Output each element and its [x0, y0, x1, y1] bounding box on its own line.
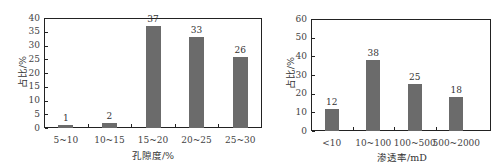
x-tick-mark: [394, 127, 395, 130]
data-label: 38: [358, 49, 388, 58]
data-label: 18: [441, 86, 471, 95]
bar: [449, 97, 463, 131]
y-tick-label: 40: [287, 52, 307, 61]
y-tick-mark: [312, 94, 315, 95]
bar: [325, 109, 339, 131]
y-tick-mark: [312, 75, 315, 76]
x-tick-mark: [353, 127, 354, 130]
bar: [408, 84, 422, 131]
y-tick-label: 0: [287, 127, 307, 136]
y-tick-label: 50: [287, 33, 307, 42]
y-tick-label: 30: [287, 71, 307, 80]
y-tick-mark: [312, 56, 315, 57]
y-tick-label: 20: [287, 89, 307, 98]
y-tick-mark: [312, 112, 315, 113]
y-tick-mark: [312, 19, 315, 20]
data-label: 25: [400, 73, 430, 82]
y-tick-mark: [312, 131, 315, 132]
data-label: 12: [317, 98, 347, 107]
bar: [366, 60, 380, 131]
x-tick-mark: [436, 127, 437, 130]
y-tick-label: 60: [287, 15, 307, 24]
y-tick-mark: [312, 38, 315, 39]
x-tick-label: 500~2000: [431, 138, 481, 148]
y-tick-label: 10: [287, 108, 307, 117]
x-axis-label: 渗透率/mD: [352, 150, 452, 164]
